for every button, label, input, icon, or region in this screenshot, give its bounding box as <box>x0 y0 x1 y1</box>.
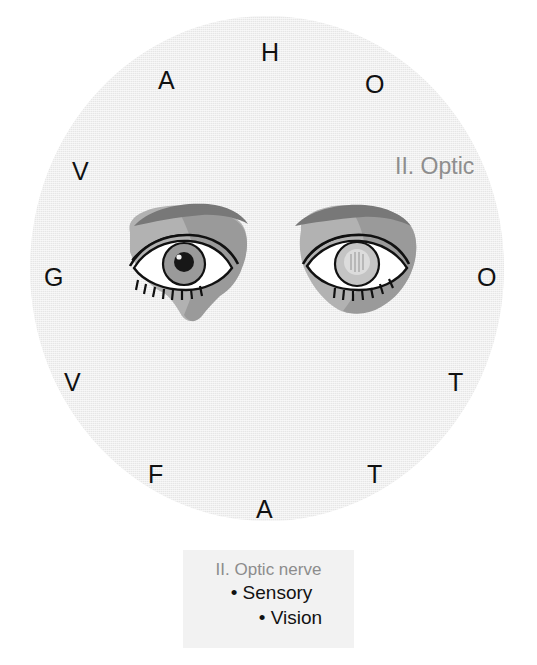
ring-letter-9: T <box>367 462 382 487</box>
caption-bullet-vision: • Vision <box>183 605 354 630</box>
caption-panel: II. Optic nerve • Sensory • Vision <box>183 550 354 648</box>
right-eye-illustration <box>285 196 425 326</box>
left-eye-illustration <box>116 196 256 326</box>
caption-title: II. Optic nerve <box>183 559 354 580</box>
ring-letter-8: F <box>148 462 163 487</box>
optic-nerve-label: II. Optic <box>395 155 474 178</box>
ring-letter-4: G <box>44 265 63 290</box>
ring-letter-5: O <box>477 265 496 290</box>
left-pupil <box>174 252 194 272</box>
ring-letter-3: V <box>72 159 89 184</box>
ring-letter-0: H <box>261 40 279 65</box>
ring-letter-7: T <box>448 370 463 395</box>
ring-letter-6: V <box>64 370 81 395</box>
caption-bullet-sensory: • Sensory <box>183 580 354 605</box>
left-corneal-highlight <box>176 254 181 259</box>
right-pupil <box>344 249 370 275</box>
ring-letter-1: A <box>158 68 175 93</box>
ring-letter-10: A <box>256 497 273 522</box>
ring-letter-2: O <box>365 72 384 97</box>
nerve-field-disc <box>30 16 504 521</box>
